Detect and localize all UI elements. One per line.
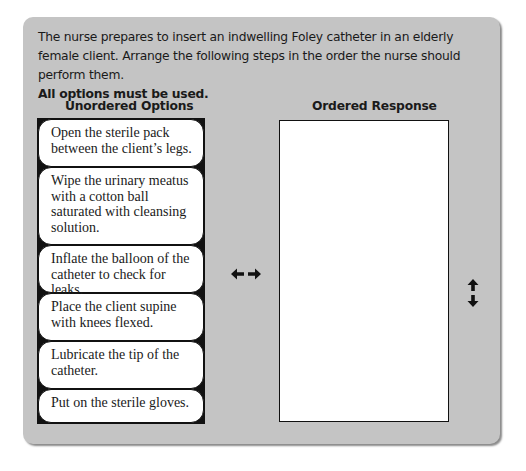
up-down-arrow-icon[interactable] <box>467 279 479 307</box>
question-prompt: The nurse prepares to insert an indwelli… <box>38 28 493 104</box>
option-item[interactable]: Inflate the balloon of the catheter to c… <box>38 245 204 293</box>
unordered-options-header: Unordered Options <box>65 99 193 113</box>
option-item[interactable]: Put on the sterile gloves. <box>38 389 204 423</box>
unordered-options-list: Open the sterile pack between the client… <box>37 118 205 424</box>
ordered-response-header: Ordered Response <box>312 99 437 113</box>
left-right-arrow-icon[interactable] <box>231 266 261 278</box>
option-item[interactable]: Wipe the urinary meatus with a cotton ba… <box>38 167 204 245</box>
question-text: The nurse prepares to insert an indwelli… <box>38 30 460 82</box>
question-card: The nurse prepares to insert an indwelli… <box>23 17 500 444</box>
ordered-response-list[interactable] <box>279 120 449 422</box>
option-item[interactable]: Place the client supine with knees flexe… <box>38 293 204 341</box>
option-item[interactable]: Open the sterile pack between the client… <box>38 119 204 167</box>
option-item[interactable]: Lubricate the tip of the catheter. <box>38 341 204 389</box>
